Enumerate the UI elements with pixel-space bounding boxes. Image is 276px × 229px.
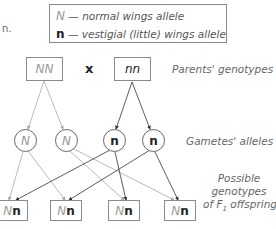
cross-symbol: x: [85, 61, 93, 76]
gamete-circle: n: [142, 129, 165, 152]
allele-text: n: [149, 134, 158, 148]
offspring-text: offspring: [227, 198, 276, 210]
legend-item-dominant: N — normal wings allele: [56, 9, 184, 23]
parents-label: Parents' genotypes: [172, 63, 273, 75]
offspring-label-line: genotypes: [203, 185, 275, 198]
offspring-label-line: Possible: [203, 172, 275, 185]
allele-dominant: N: [171, 204, 180, 218]
gamete-circle: N: [55, 129, 78, 152]
parent-genotype-box-right: nn: [114, 57, 151, 81]
genotype-text: NN: [36, 62, 54, 76]
gamete-circle: N: [14, 129, 37, 152]
f-text: of F: [203, 198, 223, 210]
offspring-label-line: of F1 offspring: [203, 198, 275, 216]
allele-recessive: n: [66, 204, 75, 218]
legend-symbol: N: [56, 9, 65, 23]
allele-text: N: [62, 134, 71, 148]
legend-description: — vestigial (little) wings allele: [68, 28, 226, 40]
allele-text: N: [21, 134, 30, 148]
parent-genotype-box-left: NN: [26, 57, 63, 81]
allele-text: n: [110, 134, 119, 148]
allele-dominant: N: [57, 204, 66, 218]
gamete-circle: n: [103, 129, 126, 152]
allele-recessive: n: [12, 204, 21, 218]
gametes-label: Gametes' alleles: [186, 135, 273, 147]
legend-symbol: n: [56, 27, 65, 41]
offspring-genotype-box: Nn: [164, 200, 196, 221]
genotype-text: nn: [125, 62, 140, 76]
legend-description: — normal wings allele: [68, 10, 184, 22]
cropped-text-fragment: n.: [2, 23, 12, 34]
legend-box: N — normal wings allele n — vestigial (l…: [49, 4, 227, 43]
allele-dominant: N: [115, 204, 124, 218]
allele-dominant: N: [3, 204, 12, 218]
legend-item-recessive: n — vestigial (little) wings allele: [56, 27, 226, 41]
offspring-genotype-box: Nn: [108, 200, 140, 221]
offspring-genotype-box: Nn: [0, 200, 28, 221]
offspring-label: Possible genotypes of F1 offspring: [203, 172, 275, 216]
allele-recessive: n: [180, 204, 189, 218]
allele-recessive: n: [124, 204, 133, 218]
offspring-genotype-box: Nn: [50, 200, 82, 221]
